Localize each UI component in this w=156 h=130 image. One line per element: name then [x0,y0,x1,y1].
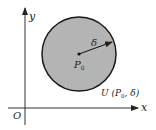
region-label-suffix: , δ) [125,88,140,98]
region-label: U (P0, δ) [101,88,140,99]
radius-label: δ [91,37,97,48]
center-label-sub: 0 [81,64,85,71]
origin-label: O [13,110,21,121]
y-axis-label: y [28,10,36,23]
x-axis-label: x [141,101,148,114]
neighborhood-diagram: y x O δ P0 U (P0, δ) [0,0,156,130]
region-label-prefix: U (P [101,88,122,98]
